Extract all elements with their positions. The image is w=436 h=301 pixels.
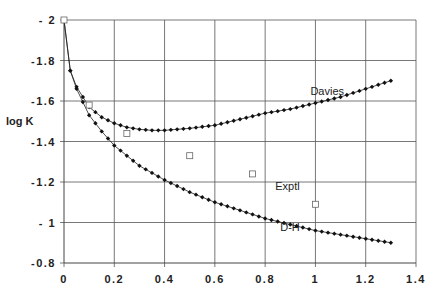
diamond-marker (376, 239, 380, 243)
x-tick-label: 0.8 (255, 273, 275, 285)
diamond-marker (175, 184, 179, 188)
diamond-marker (263, 216, 267, 220)
diamond-marker (382, 81, 386, 85)
square-marker (312, 201, 318, 207)
annotation-dh: D-H (280, 221, 300, 233)
square-marker (86, 102, 92, 108)
diamond-marker (194, 125, 198, 129)
diamond-marker (389, 241, 393, 245)
diamond-marker (181, 187, 185, 191)
diamond-marker (376, 83, 380, 87)
diamond-marker (382, 240, 386, 244)
diamond-marker (345, 93, 349, 97)
diamond-marker (364, 237, 368, 241)
diamond-marker (263, 111, 267, 115)
diamond-marker (162, 128, 166, 132)
data-series (61, 17, 393, 245)
series-exptl (61, 17, 318, 207)
diamond-marker (313, 228, 317, 232)
y-tick-label: -1.2 (31, 176, 56, 188)
y-tick-label: - 1 (39, 217, 56, 229)
diamond-marker (238, 208, 242, 212)
square-marker (61, 17, 67, 23)
diamond-marker (269, 110, 273, 114)
diamond-marker (326, 98, 330, 102)
diamond-marker (370, 238, 374, 242)
diamond-marker (213, 200, 217, 204)
diamond-marker (320, 99, 324, 103)
diamond-marker (294, 105, 298, 109)
diamond-marker (257, 112, 261, 116)
diamond-marker (351, 234, 355, 238)
diamond-marker (244, 116, 248, 120)
diamond-marker (200, 195, 204, 199)
diamond-marker (276, 109, 280, 113)
diamond-marker (238, 117, 242, 121)
diamond-marker (307, 227, 311, 231)
x-tick-label: 1 (312, 273, 320, 285)
diamond-marker (250, 114, 254, 118)
diamond-marker (188, 190, 192, 194)
x-axis-ticks: 00.20.40.60.811.21.4 (60, 273, 426, 285)
diamond-marker (326, 230, 330, 234)
x-tick-label: 0.6 (205, 273, 225, 285)
diamond-marker (206, 124, 210, 128)
diamond-marker (144, 128, 148, 132)
diamond-marker (194, 192, 198, 196)
diamond-marker (307, 102, 311, 106)
diamond-marker (351, 91, 355, 95)
diamond-marker (225, 120, 229, 124)
series-davies (64, 20, 393, 133)
diamond-marker (313, 101, 317, 105)
diamond-marker (320, 229, 324, 233)
diamond-marker (162, 178, 166, 182)
annotation-exptl: Exptl (275, 180, 299, 192)
x-tick-label: 1.2 (356, 273, 376, 285)
diamond-marker (338, 232, 342, 236)
diamond-marker (188, 126, 192, 130)
log-k-chart: 00.20.40.60.811.21.4 - 2-1.8-1.6-1.4-1.2… (0, 0, 436, 301)
diamond-marker (137, 127, 141, 131)
diamond-marker (156, 174, 160, 178)
x-tick-label: 0.2 (104, 273, 124, 285)
diamond-marker (357, 235, 361, 239)
square-marker (250, 171, 256, 177)
y-tick-label: - 2 (39, 14, 56, 26)
diamond-marker (106, 118, 110, 122)
diamond-marker (269, 218, 273, 222)
diamond-marker (175, 127, 179, 131)
gridlines (60, 20, 416, 267)
diamond-marker (364, 87, 368, 91)
y-tick-label: -0.8 (31, 257, 56, 269)
diamond-marker (81, 100, 85, 104)
diamond-marker (181, 127, 185, 131)
diamond-marker (225, 204, 229, 208)
diamond-marker (144, 167, 148, 171)
diamond-marker (288, 107, 292, 111)
y-tick-label: -1.8 (31, 55, 56, 67)
diamond-marker (282, 108, 286, 112)
y-tick-label: -1.4 (31, 136, 56, 148)
diamond-marker (150, 171, 154, 175)
diamond-marker (232, 206, 236, 210)
y-axis-label: log K (6, 115, 34, 127)
diamond-marker (389, 79, 393, 83)
diamond-marker (301, 225, 305, 229)
diamond-marker (131, 126, 135, 130)
diamond-marker (357, 89, 361, 93)
diamond-marker (68, 68, 72, 72)
diamond-marker (250, 212, 254, 216)
diamond-marker (213, 123, 217, 127)
diamond-marker (206, 198, 210, 202)
diamond-marker (219, 202, 223, 206)
diamond-marker (125, 125, 129, 129)
series-dh (64, 20, 393, 245)
diamond-marker (169, 181, 173, 185)
x-tick-label: 0 (60, 273, 68, 285)
x-tick-label: 0.4 (155, 273, 175, 285)
diamond-marker (257, 214, 261, 218)
diamond-marker (301, 104, 305, 108)
series-annotations: DaviesExptlD-H (275, 85, 344, 233)
diamond-marker (156, 128, 160, 132)
y-tick-label: -1.6 (31, 95, 56, 107)
